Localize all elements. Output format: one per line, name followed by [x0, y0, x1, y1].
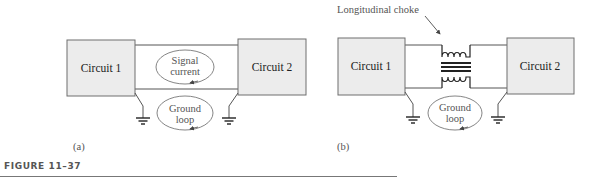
ground-lead-left — [405, 92, 413, 117]
choke-pointer-arrow-icon — [425, 16, 440, 34]
ground-loop-label-2: loop — [446, 113, 465, 124]
panel-a-label: (a) — [73, 141, 85, 153]
ground-symbol-icon — [406, 117, 420, 123]
ground-symbol-icon — [222, 118, 236, 124]
choke-label: Longitudinal choke — [337, 4, 419, 15]
panel-a: Circuit 1 Circuit 2 Signal current Groun… — [67, 39, 306, 153]
longitudinal-choke-icon — [441, 45, 471, 88]
circuit-2-label: Circuit 2 — [520, 60, 561, 72]
figure-canvas: Circuit 1 Circuit 2 Signal current Groun… — [0, 0, 597, 180]
ground-loop-label-1: Ground — [439, 102, 472, 113]
ground-loop-label-1: Ground — [169, 103, 202, 114]
panel-b: Longitudinal choke Circuit 1 Circuit 2 G… — [337, 4, 574, 153]
circuit-1-label: Circuit 1 — [351, 60, 392, 72]
panel-b-label: (b) — [337, 141, 350, 153]
figure-caption: FIGURE 11–37 — [4, 161, 81, 171]
circuit-1-label: Circuit 1 — [81, 62, 122, 74]
ground-loop-label-2: loop — [176, 114, 195, 125]
ground-lead-left — [135, 93, 143, 118]
ground-lead-right — [498, 92, 507, 117]
ground-symbol-icon — [136, 118, 150, 124]
ground-lead-right — [229, 93, 238, 118]
caption-divider — [0, 176, 397, 177]
signal-loop-label-2: current — [170, 66, 200, 77]
ground-symbol-icon — [491, 117, 505, 123]
signal-loop-label-1: Signal — [172, 55, 199, 66]
circuit-2-label: Circuit 2 — [252, 61, 293, 73]
